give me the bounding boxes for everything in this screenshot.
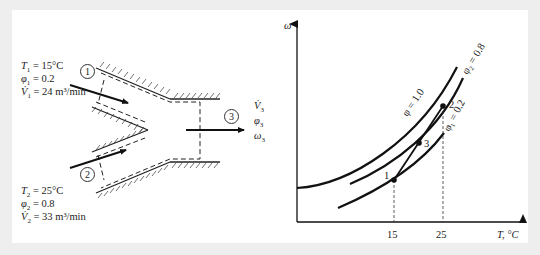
- x-tick-15: 15: [387, 229, 398, 241]
- state-1-marker: 1: [80, 64, 95, 79]
- point-label-1: 1: [384, 170, 389, 182]
- curve-phi-0-8: [350, 78, 463, 184]
- inlet-1-flow-rate: V̇1 = 24 m³/min: [21, 86, 86, 102]
- upper-duct-outer-wall: [96, 62, 220, 99]
- upper-duct-inner-wall: [92, 107, 148, 132]
- x-axis-label: T, °C: [497, 229, 519, 241]
- x-tick-25: 25: [436, 229, 447, 241]
- y-axis-label: ω: [284, 20, 291, 32]
- inlet-2-flow-rate: V̇2 = 33 m³/min: [21, 211, 86, 227]
- lower-duct-inner-wall: [92, 129, 148, 152]
- state-point-3: [416, 140, 422, 146]
- outlet-3-humidity-ratio: ω3: [254, 130, 265, 146]
- state-2-marker: 2: [80, 167, 95, 182]
- point-label-2: 2: [449, 99, 454, 111]
- state-point-2: [440, 103, 446, 109]
- lower-duct-outer-wall: [96, 162, 220, 198]
- state-3-marker: 3: [224, 109, 239, 124]
- point-label-3: 3: [424, 138, 429, 150]
- outlet-3-flow-rate: V̇3: [254, 100, 264, 116]
- inlet-2-flow-arrow: [70, 150, 126, 168]
- psychrometric-chart: [297, 24, 523, 222]
- state-point-1: [391, 177, 397, 183]
- outlet-3-humidity: φ3: [254, 115, 263, 131]
- mixing-chamber-diagram: [70, 62, 244, 198]
